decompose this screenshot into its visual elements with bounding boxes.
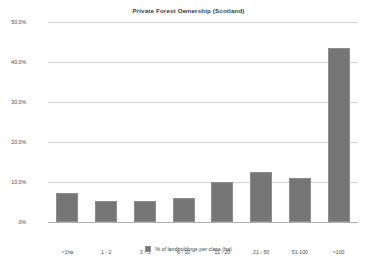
bar — [95, 201, 117, 222]
bar — [134, 201, 156, 222]
gridline — [48, 62, 358, 63]
chart-container: Private Forest Ownership (Scotland) 50.0… — [0, 0, 377, 269]
plot-area: 50.0%40.0%30.0%20.0%10.0%0%<1ha1 - 23 - … — [48, 22, 358, 222]
bar — [173, 198, 195, 222]
bar — [211, 182, 233, 222]
bar — [250, 172, 272, 222]
gridline — [48, 142, 358, 143]
y-axis-tick-label: 10.0% — [0, 179, 26, 185]
chart-legend: % of landholdings per class (ha) — [0, 246, 377, 252]
chart-title: Private Forest Ownership (Scotland) — [0, 7, 377, 14]
gridline — [48, 22, 358, 23]
gridline — [48, 182, 358, 183]
y-axis-tick-label: 20.0% — [0, 139, 26, 145]
bar — [328, 48, 350, 222]
x-axis-line — [48, 222, 358, 223]
bar — [56, 193, 78, 222]
legend-label: % of landholdings per class (ha) — [155, 246, 232, 252]
y-axis-tick-label: 0% — [0, 219, 26, 225]
y-axis-tick-label: 40.0% — [0, 59, 26, 65]
y-axis-tick-label: 50.0% — [0, 19, 26, 25]
y-axis-tick-label: 30.0% — [0, 99, 26, 105]
gridline — [48, 102, 358, 103]
legend-color-swatch — [145, 246, 151, 252]
bar — [289, 178, 311, 222]
